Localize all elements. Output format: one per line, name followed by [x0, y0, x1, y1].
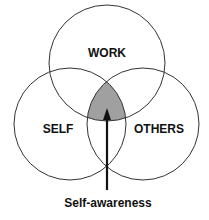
- self-awareness-label: Self-awareness: [64, 196, 152, 210]
- venn-svg: WORK SELF OTHERS Self-awareness: [0, 0, 209, 220]
- work-label: WORK: [88, 46, 126, 60]
- venn-diagram: WORK SELF OTHERS Self-awareness: [0, 0, 209, 220]
- others-label: OTHERS: [134, 122, 184, 136]
- self-label: SELF: [43, 122, 74, 136]
